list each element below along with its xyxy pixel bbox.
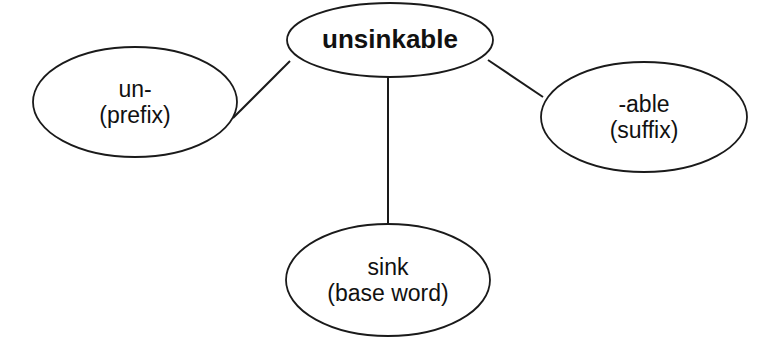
base-node-term: sink: [327, 254, 448, 280]
center-node-label: unsinkable: [322, 25, 458, 55]
base-node-type: (base word): [327, 280, 448, 306]
suffix-node-term: -able: [610, 91, 679, 117]
prefix-node: un- (prefix): [99, 76, 171, 129]
suffix-node-type: (suffix): [610, 117, 679, 143]
edge-center-prefix: [233, 61, 290, 118]
suffix-node: -able (suffix): [610, 91, 679, 144]
prefix-node-term: un-: [99, 76, 171, 102]
base-node: sink (base word): [327, 254, 448, 307]
prefix-node-type: (prefix): [99, 102, 171, 128]
edge-center-suffix: [488, 60, 543, 97]
